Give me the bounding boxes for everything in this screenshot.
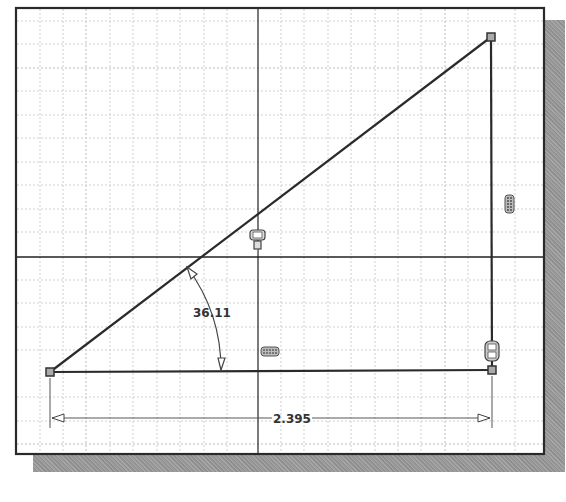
triangle-sketch[interactable]: [50, 37, 492, 372]
vertex-bottom-right[interactable]: [488, 366, 496, 374]
horizontal-dimension[interactable]: [50, 376, 492, 428]
vertex-top-right[interactable]: [487, 33, 495, 41]
coincident-constraint-icon[interactable]: [250, 230, 265, 256]
perpendicular-constraint-icon[interactable]: [485, 341, 499, 361]
sketch-graphics[interactable]: 2.395 36.11: [0, 0, 566, 502]
vertical-constraint-icon[interactable]: [505, 195, 514, 213]
viewport-border: [16, 8, 544, 454]
hypotenuse-line[interactable]: [50, 37, 491, 372]
sketch-grid: [17, 9, 543, 453]
arrow-top-icon: [187, 267, 197, 279]
horizontal-dimension-value[interactable]: 2.395: [273, 412, 311, 426]
vertical-side-line[interactable]: [491, 37, 492, 370]
arrow-bottom-icon: [218, 358, 225, 370]
base-line[interactable]: [50, 370, 492, 372]
angle-dimension-value[interactable]: 36.11: [193, 306, 231, 320]
arrow-right-icon: [478, 414, 490, 422]
horizontal-constraint-icon[interactable]: [261, 347, 279, 356]
vertex-bottom-left[interactable]: [46, 368, 54, 376]
